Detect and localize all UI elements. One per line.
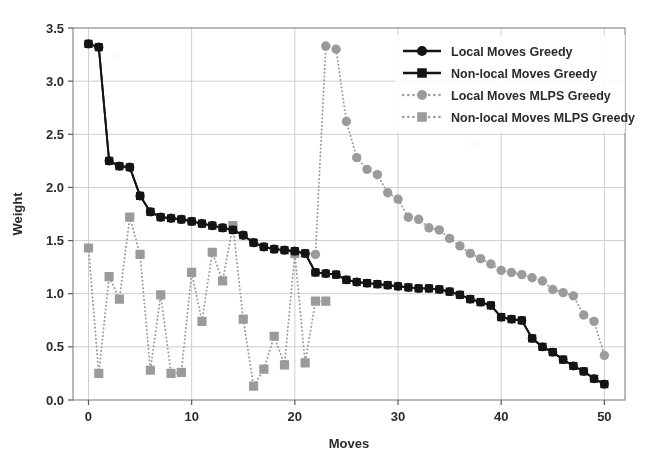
data-point-marker [363,279,372,288]
data-point-marker [342,117,351,126]
data-point-marker [445,234,454,243]
data-point-marker [456,290,465,299]
data-point-marker [84,243,93,252]
data-point-marker [115,294,124,303]
data-point-marker [497,313,506,322]
y-axis-tick-label: 3.0 [46,74,64,89]
y-axis-tick-label: 0.5 [46,339,64,354]
data-point-marker [135,250,144,259]
data-point-marker [476,298,485,307]
chart-legend: Local Moves GreedyNon-local Moves Greedy… [395,35,635,133]
data-point-marker [156,290,165,299]
data-point-marker [417,46,427,56]
data-point-marker [146,207,155,216]
data-point-marker [311,297,320,306]
legend-label: Local Moves MLPS Greedy [451,89,611,103]
data-point-marker [239,231,248,240]
data-point-marker [229,226,238,235]
data-point-marker [187,268,196,277]
data-point-marker [496,266,505,275]
data-point-marker [125,163,134,172]
data-point-marker [249,238,258,247]
data-point-marker [507,315,516,324]
data-point-marker [538,342,547,351]
y-axis-title: Weight [10,192,25,236]
data-point-marker [321,269,330,278]
data-point-marker [517,316,526,325]
data-point-marker [362,165,371,174]
data-point-marker [417,90,427,100]
data-point-marker [486,301,495,310]
x-axis-title: Moves [329,436,369,451]
data-point-marker [548,348,557,357]
data-point-marker [197,317,206,326]
data-point-marker [414,284,423,293]
y-axis-tick-label: 2.5 [46,127,64,142]
data-point-marker [270,245,279,254]
legend-label: Non-local Moves Greedy [451,67,597,81]
data-point-marker [239,315,248,324]
x-axis-tick-label: 50 [597,409,611,424]
data-point-marker [394,282,403,291]
data-point-marker [352,153,361,162]
weight-vs-moves-line-chart: 0.00.51.01.52.02.53.03.5 01020304050 Loc… [0,0,650,467]
data-point-marker [425,284,434,293]
data-point-marker [466,249,475,258]
data-point-marker [259,243,268,252]
data-point-marker [527,273,536,282]
data-point-marker [187,217,196,226]
data-point-marker [393,194,402,203]
data-point-marker [558,288,567,297]
x-axis-tick-label: 0 [85,409,92,424]
data-point-marker [146,366,155,375]
data-point-marker [166,369,175,378]
data-point-marker [476,254,485,263]
data-point-marker [167,214,176,223]
data-point-marker [414,215,423,224]
data-point-marker [507,268,516,277]
data-point-marker [517,270,526,279]
data-point-marker [321,297,330,306]
data-point-marker [559,355,568,364]
data-point-marker [579,367,588,376]
data-point-marker [404,212,413,221]
data-point-marker [208,248,217,257]
data-point-marker [136,192,145,201]
data-point-marker [270,332,279,341]
data-point-marker [208,221,217,230]
data-point-marker [445,287,454,296]
data-point-marker [301,249,310,258]
data-point-marker [383,188,392,197]
data-point-marker [177,368,186,377]
data-point-marker [435,225,444,234]
data-point-marker [528,334,537,343]
x-axis-tick-label: 20 [288,409,302,424]
data-point-marker [424,223,433,232]
data-point-marker [404,283,413,292]
data-point-marker [579,310,588,319]
data-point-marker [198,219,207,228]
data-point-marker [259,365,268,374]
y-axis-tick-label: 0.0 [46,393,64,408]
data-point-marker [455,241,464,250]
data-point-marker [486,259,495,268]
y-axis-tick-label: 3.5 [46,21,64,36]
data-point-marker [373,170,382,179]
data-point-marker [589,317,598,326]
data-point-marker [331,45,340,54]
y-axis-tick-label: 1.5 [46,233,64,248]
data-point-marker [105,272,114,281]
data-point-marker [218,223,227,232]
x-axis-tick-label: 30 [391,409,405,424]
data-point-marker [280,246,289,255]
data-point-marker [115,162,124,171]
legend-label: Non-local Moves MLPS Greedy [451,111,635,125]
x-axis-tick-label: 40 [494,409,508,424]
x-axis-tick-label: 10 [184,409,198,424]
data-point-marker [548,285,557,294]
data-point-marker [156,213,165,222]
data-point-marker [417,68,427,78]
legend-label: Local Moves Greedy [451,45,573,59]
data-point-marker [332,270,341,279]
chart-figure: 0.00.51.01.52.02.53.03.5 01020304050 Loc… [0,0,650,467]
